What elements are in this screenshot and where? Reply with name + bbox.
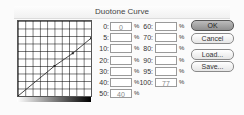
- field-label: 10:: [99, 45, 109, 52]
- percent-label: %: [179, 57, 184, 63]
- percent-label: %: [134, 90, 139, 96]
- input-40[interactable]: [110, 78, 132, 87]
- dialog-title: Duotone Curve: [14, 7, 230, 16]
- field-label: 60:: [143, 23, 153, 30]
- curve-point[interactable]: [54, 65, 56, 67]
- field-row-90: 90: %: [138, 56, 188, 66]
- field-row-60: 60: %: [138, 22, 188, 32]
- field-label: 5:: [103, 34, 109, 41]
- save-button[interactable]: Save...: [191, 61, 234, 72]
- input-10[interactable]: [110, 44, 132, 53]
- input-5[interactable]: [110, 33, 132, 42]
- curve-point[interactable]: [18, 95, 19, 96]
- duotone-curve-dialog: Duotone Curve 0: 0 % 5: % 10: % 20: % 30…: [0, 0, 244, 115]
- tone-gradient-bar: [17, 97, 91, 102]
- input-70[interactable]: [155, 33, 177, 42]
- field-label: 40:: [99, 79, 109, 86]
- title-bar[interactable]: Duotone Curve: [14, 6, 230, 19]
- input-0[interactable]: 0: [110, 22, 132, 31]
- curve-point[interactable]: [90, 37, 91, 39]
- field-row-80: 80: %: [138, 44, 188, 54]
- ok-button[interactable]: OK: [191, 20, 234, 31]
- input-90[interactable]: [155, 56, 177, 65]
- load-button[interactable]: Load...: [191, 49, 234, 60]
- field-label: 0:: [103, 23, 109, 30]
- field-row-100: 100: 77 %: [138, 78, 188, 88]
- input-50[interactable]: 40: [110, 89, 132, 98]
- cancel-button[interactable]: Cancel: [191, 33, 234, 44]
- input-20[interactable]: [110, 56, 132, 65]
- percent-label: %: [179, 79, 184, 85]
- field-row-50: 50: 40 %: [96, 89, 146, 99]
- input-60[interactable]: [155, 22, 177, 31]
- percent-label: %: [179, 23, 184, 29]
- input-100[interactable]: 77: [155, 78, 177, 87]
- field-label: 100:: [139, 79, 153, 86]
- input-30[interactable]: [110, 67, 132, 76]
- curve-graph[interactable]: [17, 20, 92, 97]
- percent-label: %: [179, 34, 184, 40]
- input-95[interactable]: [155, 67, 177, 76]
- field-row-70: 70: %: [138, 33, 188, 43]
- field-row-95: 95: %: [138, 67, 188, 77]
- percent-label: %: [179, 68, 184, 74]
- curve-line: [18, 21, 91, 96]
- field-label: 70:: [143, 34, 153, 41]
- field-label: 30:: [99, 68, 109, 75]
- percent-label: %: [179, 45, 184, 51]
- input-80[interactable]: [155, 44, 177, 53]
- field-label: 90:: [143, 57, 153, 64]
- field-label: 20:: [99, 57, 109, 64]
- field-label: 80:: [143, 45, 153, 52]
- field-label: 95:: [143, 68, 153, 75]
- field-label: 50:: [99, 90, 109, 97]
- curve-point[interactable]: [72, 52, 74, 54]
